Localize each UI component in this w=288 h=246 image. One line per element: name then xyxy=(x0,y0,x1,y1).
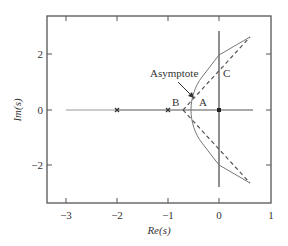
y-tick-label: −2 xyxy=(31,159,43,171)
y-tick-label: 2 xyxy=(38,48,44,60)
asymptote-lower xyxy=(183,110,250,183)
x-tick-label: 1 xyxy=(268,209,274,221)
x-tick-label: 0 xyxy=(216,209,222,221)
x-tick-label: −2 xyxy=(111,209,123,221)
annotation-c: C xyxy=(223,67,230,79)
root-locus-figure: −3 −2 −1 0 1 2 0 −2 Re(s) Im(s) Asymptot… xyxy=(0,0,288,246)
annotation-asymptote: Asymptote xyxy=(150,67,198,79)
pole-square-icon xyxy=(217,108,221,112)
annotation-b: B xyxy=(172,96,179,108)
asymptote-arrow xyxy=(178,82,192,96)
annotation-a: A xyxy=(199,96,207,108)
root-locus-lower-branch xyxy=(191,110,250,183)
x-axis-label: Re(s) xyxy=(146,224,171,237)
y-tick-label: 0 xyxy=(38,104,44,116)
x-tick-label: −1 xyxy=(162,209,174,221)
y-axis-label: Im(s) xyxy=(11,98,24,123)
x-tick-label: −3 xyxy=(60,209,72,221)
